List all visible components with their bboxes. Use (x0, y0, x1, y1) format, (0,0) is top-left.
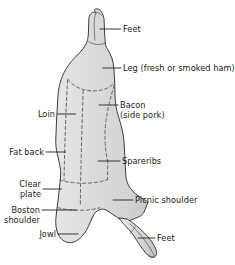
label-clear-plate-line2: plate (19, 189, 41, 199)
label-loin: Loin (38, 109, 55, 119)
label-clear-plate-line1: Clear (19, 179, 41, 189)
label-clear-plate: Clear plate (19, 179, 41, 199)
label-spareribs-text: Spareribs (122, 156, 161, 166)
label-bacon-line2: (side pork) (120, 110, 165, 120)
label-feet-top: Feet (123, 24, 141, 34)
label-picnic-shoulder-text: Picnic shoulder (135, 195, 197, 205)
carcass-body-group (56, 9, 157, 258)
label-fat-back-text: Fat back (9, 147, 44, 157)
label-feet-bottom: Feet (157, 233, 175, 243)
label-picnic-shoulder: Picnic shoulder (135, 195, 197, 205)
label-leg: Leg (fresh or smoked ham) (123, 63, 235, 73)
label-boston-shoulder-line1: Boston (4, 205, 40, 215)
label-boston-shoulder-line2: shoulder (4, 215, 40, 225)
label-bacon-line1: Bacon (120, 100, 165, 110)
label-leg-text: Leg (fresh or smoked ham) (123, 63, 235, 73)
label-spareribs: Spareribs (122, 156, 161, 166)
label-feet-bottom-text: Feet (157, 233, 175, 243)
label-bacon: Bacon (side pork) (120, 100, 165, 120)
pork-cuts-diagram: Feet Leg (fresh or smoked ham) Bacon (si… (0, 0, 235, 265)
label-feet-top-text: Feet (123, 24, 141, 34)
label-boston-shoulder: Boston shoulder (4, 205, 40, 225)
label-jowl-text: Jowl (39, 229, 56, 239)
label-fat-back: Fat back (9, 147, 44, 157)
label-jowl: Jowl (39, 229, 56, 239)
label-loin-text: Loin (38, 109, 55, 119)
